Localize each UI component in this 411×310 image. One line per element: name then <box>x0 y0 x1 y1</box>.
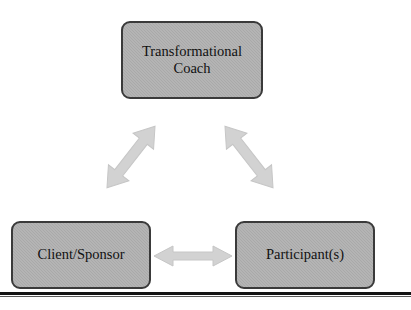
diagram-node-participant[interactable]: Participant(s) <box>235 221 375 289</box>
diagram-node-client-label: Client/Sponsor <box>31 246 130 263</box>
diagram-node-client[interactable]: Client/Sponsor <box>11 221 151 289</box>
bottom-divider-rule <box>0 292 411 295</box>
diagram-canvas: Transformational Coach Client/Sponsor Pa… <box>0 0 411 310</box>
diagram-node-participant-label: Participant(s) <box>260 246 350 263</box>
double-arrow-icon-coach-participant <box>214 116 284 198</box>
double-arrow-icon-coach-client <box>96 116 166 198</box>
diagram-node-coach-label: Transformational Coach <box>136 43 248 77</box>
bottom-divider-rule-secondary <box>0 296 411 297</box>
diagram-node-coach[interactable]: Transformational Coach <box>121 21 263 99</box>
double-arrow-icon-client-participant <box>152 243 234 269</box>
